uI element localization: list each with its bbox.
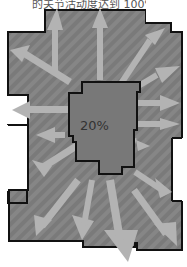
joint-range-diagram [0, 0, 187, 267]
center-percentage-label: 20% [80, 118, 109, 133]
